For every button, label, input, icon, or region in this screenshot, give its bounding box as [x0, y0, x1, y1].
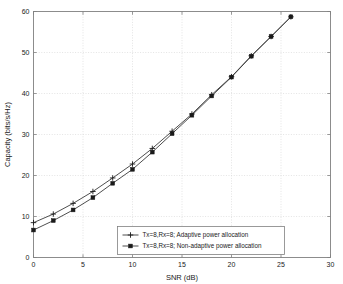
data-marker-square [111, 181, 115, 185]
y-tick-label: 0 [26, 254, 30, 261]
x-tick-label: 5 [81, 261, 85, 268]
data-marker-square [71, 208, 75, 212]
data-marker-square [170, 132, 174, 136]
y-axis-label: Capacity (bits/s/Hz) [3, 101, 12, 167]
data-marker-square [131, 167, 135, 171]
data-marker-square [230, 75, 234, 79]
data-marker-square [91, 196, 95, 200]
x-tick-label: 10 [129, 261, 137, 268]
x-tick-label: 25 [277, 261, 285, 268]
y-tick-label: 30 [22, 131, 30, 138]
data-marker-square [32, 228, 36, 232]
x-tick-label: 15 [178, 261, 186, 268]
x-tick-label: 20 [228, 261, 236, 268]
data-marker-square [289, 15, 293, 19]
y-tick-label: 40 [22, 90, 30, 97]
chart-legend[interactable]: Tx=8,Rx=8; Adaptive power allocationTx=8… [118, 227, 285, 255]
y-tick-label: 10 [22, 213, 30, 220]
y-tick-label: 50 [22, 49, 30, 56]
data-marker-square [210, 94, 214, 98]
chart-figure: 051015202530 0102030405060 SNR (dB) Capa… [0, 0, 343, 284]
legend-label: Tx=8,Rx=8; Non-adaptive power allocation [143, 242, 263, 250]
data-marker-square [190, 113, 194, 117]
legend-item-1[interactable]: Tx=8,Rx=8; Non-adaptive power allocation [123, 242, 263, 250]
capacity-vs-snr-chart: 051015202530 0102030405060 SNR (dB) Capa… [0, 0, 343, 284]
y-tick-label: 60 [22, 8, 30, 15]
x-axis-label: SNR (dB) [166, 273, 199, 282]
data-marker-square [269, 35, 273, 39]
data-marker-square [249, 54, 253, 58]
y-tick-label: 20 [22, 172, 30, 179]
data-marker-square [51, 219, 55, 223]
x-tick-label: 30 [327, 261, 335, 268]
legend-label: Tx=8,Rx=8; Adaptive power allocation [143, 231, 249, 239]
x-tick-label: 0 [32, 261, 36, 268]
data-marker-square [129, 244, 133, 248]
data-marker-square [150, 150, 154, 154]
